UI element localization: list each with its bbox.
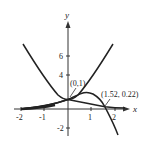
svg-text:1: 1 — [88, 113, 92, 122]
svg-text:4: 4 — [59, 71, 63, 80]
svg-text:-1: -1 — [39, 113, 46, 122]
annotation-0-1: (0,1) — [70, 79, 86, 88]
x-axis-label: x — [132, 104, 137, 114]
svg-text:-2: -2 — [16, 113, 23, 122]
svg-text:6: 6 — [59, 52, 63, 61]
annotation-arrow-icon — [105, 99, 110, 106]
annotation-1-52: (1.52, 0.22) — [101, 90, 139, 99]
y-axis-arrow-icon — [66, 21, 71, 28]
svg-text:-2: -2 — [57, 124, 64, 133]
chart: x y -2 -1 1 2 6 4 -2 (0,1) (1.52, 0.22) — [0, 0, 155, 142]
y-axis-label: y — [64, 10, 69, 20]
overlap-thick-segment — [21, 105, 55, 109]
